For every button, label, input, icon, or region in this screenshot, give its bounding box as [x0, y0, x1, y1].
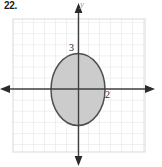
y-intercept-label-3: 3	[69, 42, 74, 53]
x-intercept-label-2: 2	[105, 89, 110, 100]
y-axis-down-arrowhead	[75, 156, 83, 166]
x-axis-left-arrowhead	[0, 85, 10, 93]
y-axis-label: y	[80, 0, 84, 9]
x-axis-right-arrowhead	[145, 85, 155, 93]
graph-figure-screenshot: 22. y 3 2	[0, 0, 162, 167]
coordinate-plane-figure	[0, 0, 162, 167]
